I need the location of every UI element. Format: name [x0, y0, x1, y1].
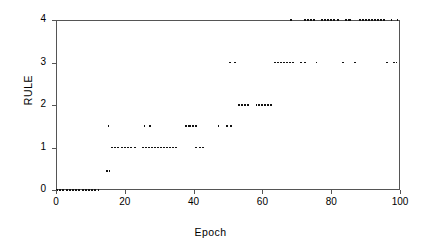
x-tick [400, 190, 401, 194]
chart-figure: RULE 01234 020406080100 Epoch [0, 0, 421, 249]
plot-area-frame [56, 20, 400, 190]
x-tick-label: 40 [174, 196, 214, 207]
x-tick-label: 0 [36, 196, 76, 207]
x-tick-label: 100 [380, 196, 420, 207]
x-tick [56, 190, 57, 194]
y-tick-label: 2 [20, 98, 46, 109]
x-tick-label: 80 [311, 196, 351, 207]
x-tick [194, 190, 195, 194]
x-tick [125, 190, 126, 194]
x-tick-label: 20 [105, 196, 145, 207]
y-tick-label: 1 [20, 141, 46, 152]
y-tick-label: 0 [20, 183, 46, 194]
y-axis-title: RULE [22, 60, 34, 120]
y-tick-label: 4 [20, 13, 46, 24]
y-tick-label: 3 [20, 56, 46, 67]
x-tick [331, 190, 332, 194]
x-tick [262, 190, 263, 194]
x-axis-title: Epoch [0, 226, 421, 238]
x-tick-label: 60 [242, 196, 282, 207]
